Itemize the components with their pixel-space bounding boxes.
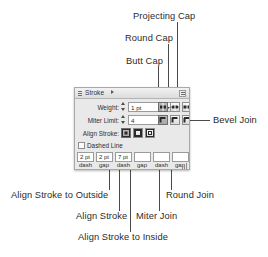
dash-field-6[interactable] [172,152,189,162]
dash-field-1[interactable]: 2 pt [77,152,94,162]
callout-bevel-join: Bevel Join [213,115,257,126]
dash-caption-2: gap [99,162,109,168]
figure-canvas: Projecting Cap Round Cap Butt Cap Bevel … [0,0,268,257]
callout-round-cap: Round Cap [125,33,173,44]
callout-projecting-cap: Projecting Cap [133,11,195,22]
dash-field-4[interactable] [134,152,151,162]
dash-caption-4: gap [137,162,147,168]
dash-caption-3: dash [117,162,130,168]
round-join-button[interactable] [170,115,180,125]
bevel-join-button[interactable] [182,115,190,125]
dash-field-2[interactable]: 2 pt [96,152,113,162]
dash-field-3[interactable]: 7 pt [115,152,132,162]
butt-cap-button[interactable] [158,102,168,112]
weight-label: Weight: [77,104,119,111]
dashed-line-label: Dashed Line [87,142,123,149]
callout-round-join: Round Join [166,190,214,201]
dash-caption-1: dash [79,162,92,168]
panel-grip-icon [78,91,82,96]
panel-collapse-arrow-icon[interactable] [111,90,114,94]
callout-miter-join: Miter Join [136,211,177,222]
callout-align-stroke: Align Stroke [76,211,127,222]
panel-title-bar[interactable]: Stroke [75,88,189,99]
miter-limit-input[interactable]: 4 [128,115,162,125]
projecting-cap-button[interactable] [182,102,190,112]
stroke-panel[interactable]: Stroke Weight: 1 pt Miter Limit: 4 x Ali… [74,87,190,170]
align-stroke-to-outside-button[interactable] [145,128,155,138]
panel-body: Weight: 1 pt Miter Limit: 4 x Align Stro… [75,99,189,170]
weight-stepper[interactable] [121,102,126,111]
miter-join-button[interactable] [158,115,168,125]
weight-input[interactable]: 1 pt [128,102,162,112]
miter-limit-stepper[interactable] [121,115,126,124]
align-stroke-to-center-button[interactable] [121,128,131,138]
dash-caption-5: dash [155,162,168,168]
callout-align-stroke-to-outside: Align Stroke to Outside [11,190,108,201]
miter-limit-label: Miter Limit: [77,117,119,124]
panel-title: Stroke [85,89,104,96]
callout-align-stroke-to-inside: Align Stroke to Inside [78,232,168,243]
align-stroke-to-inside-button[interactable] [133,128,143,138]
round-cap-button[interactable] [170,102,180,112]
align-stroke-label: Align Stroke: [75,130,119,137]
dashed-line-checkbox[interactable] [78,142,85,149]
panel-menu-icon[interactable] [179,90,186,97]
dash-field-5[interactable] [153,152,170,162]
panel-resize-grip[interactable] [182,163,188,169]
